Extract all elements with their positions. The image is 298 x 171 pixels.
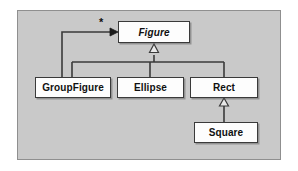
class-name-rect: Rect [213,82,235,93]
class-name-square: Square [209,127,244,138]
diagram-canvas: * Figure GroupFigure Ellipse Rect Square [0,0,298,171]
class-box-ellipse[interactable]: Ellipse [117,77,184,98]
multiplicity-label: * [99,17,103,27]
class-name-figure: Figure [138,27,169,38]
class-box-groupfigure[interactable]: GroupFigure [35,77,111,98]
class-box-rect[interactable]: Rect [190,77,258,98]
class-box-figure[interactable]: Figure [118,21,190,43]
class-name-groupfigure: GroupFigure [42,82,104,93]
class-box-square[interactable]: Square [194,122,258,143]
class-name-ellipse: Ellipse [134,82,167,93]
